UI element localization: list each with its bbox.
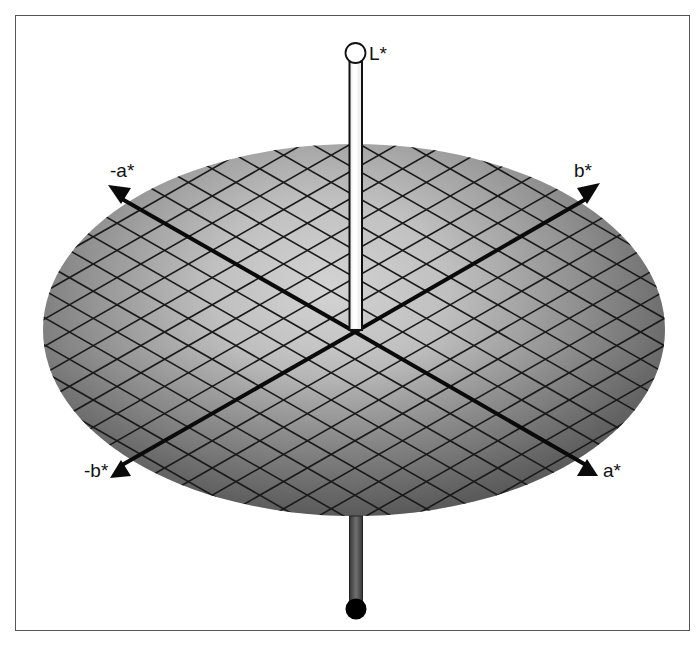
label-b-negative: -b* xyxy=(84,460,109,481)
label-b-positive: b* xyxy=(574,160,593,181)
label-l-star: L* xyxy=(369,43,388,64)
lab-color-space-diagram: L* -a* b* -b* a* xyxy=(0,0,697,646)
label-a-positive: a* xyxy=(603,460,622,481)
lower-l-axis xyxy=(346,516,367,620)
white-pole-end-icon xyxy=(346,43,366,63)
black-pole-end-icon xyxy=(346,599,367,620)
upper-l-axis xyxy=(346,43,366,330)
label-a-negative: -a* xyxy=(110,160,135,181)
